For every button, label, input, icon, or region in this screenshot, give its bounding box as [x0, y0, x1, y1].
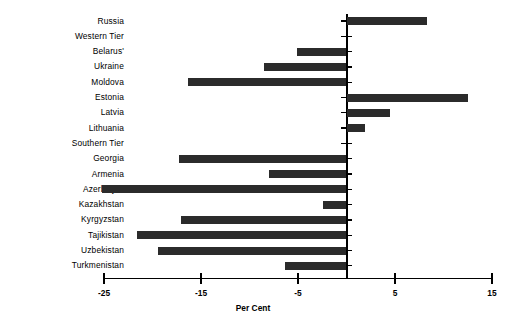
bar — [297, 48, 346, 56]
bar — [347, 124, 365, 132]
bar — [269, 170, 347, 178]
bar — [181, 216, 347, 224]
bar — [137, 231, 347, 239]
bar — [158, 247, 346, 255]
bar — [264, 63, 346, 71]
bar — [102, 185, 346, 193]
x-axis-tick-label: -5 — [294, 288, 301, 298]
bar — [285, 262, 346, 270]
x-axis-tick — [394, 273, 395, 284]
x-axis-tick-label: -15 — [195, 288, 207, 298]
bar — [347, 17, 428, 25]
x-axis-title: Per Cent — [0, 303, 506, 313]
bar — [179, 155, 347, 163]
x-axis-tick — [491, 273, 492, 284]
x-axis-tick-label: -25 — [98, 288, 110, 298]
zero-axis-tick — [341, 143, 352, 144]
x-axis-tick-label: 15 — [487, 288, 496, 298]
bar — [347, 94, 468, 102]
x-axis-tick — [297, 273, 298, 284]
x-axis-tick — [103, 273, 104, 284]
x-axis-tick-label: 5 — [393, 288, 398, 298]
zero-axis-tick — [341, 36, 352, 37]
bar-chart: RussiaWestern TierBelarus'UkraineMoldova… — [0, 0, 506, 322]
plot-area — [0, 0, 506, 322]
bar — [323, 201, 346, 209]
bar — [188, 78, 346, 86]
x-axis-tick — [200, 273, 201, 284]
bar — [347, 109, 391, 117]
